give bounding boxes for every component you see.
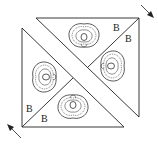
label-b-1: B [113, 22, 120, 33]
label-b-2: B [125, 33, 132, 44]
quilt-diagram: B B B B [0, 0, 158, 148]
arrow-bottom-left-icon [7, 124, 21, 138]
label-b-3: B [26, 103, 33, 114]
label-b-4: B [41, 113, 48, 124]
arrow-top-right-icon [141, 5, 154, 18]
